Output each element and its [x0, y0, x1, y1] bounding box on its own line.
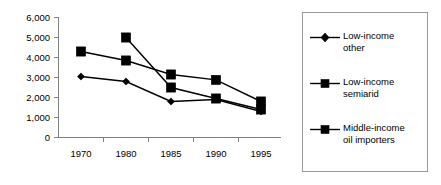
data-point: [76, 47, 85, 56]
y-tick-label-4000: 4,000: [26, 52, 50, 63]
chart-canvas: 6,000 5,000 4,000 3,000 2,000 1,000 0 19…: [0, 0, 292, 185]
y-tick-label-1000: 1,000: [26, 112, 50, 123]
x-axis-ticks: 1970 1980 1985 1990 1995: [70, 138, 271, 160]
data-point: [211, 94, 220, 103]
series-line: [81, 77, 261, 112]
y-axis-ticks: 6,000 5,000 4,000 3,000 2,000 1,000 0: [26, 12, 58, 143]
y-tick-label-2000: 2,000: [26, 92, 50, 103]
x-tick-label-1990: 1990: [205, 148, 226, 159]
y-tick-label-3000: 3,000: [26, 72, 50, 83]
y-tick-label-5000: 5,000: [26, 32, 50, 43]
data-point: [122, 78, 129, 85]
data-point: [166, 70, 175, 79]
legend-item-low-income-other[interactable]: Low-income other: [310, 30, 394, 53]
data-point: [121, 33, 130, 42]
square-marker-icon: [310, 123, 340, 136]
chart-legend: Low-income other Low-income semiarid Mid…: [302, 12, 428, 172]
data-point: [256, 105, 265, 114]
chart-screenshot: 6,000 5,000 4,000 3,000 2,000 1,000 0 19…: [0, 0, 441, 185]
legend-label-low-income-other: Low-income other: [343, 30, 394, 53]
series-2: [121, 33, 265, 114]
x-tick-label-1995: 1995: [250, 148, 271, 159]
x-tick-label-1970: 1970: [70, 148, 91, 159]
legend-item-middle-income-oil-importers[interactable]: Middle-income oil importers: [310, 122, 405, 145]
data-point: [166, 83, 175, 92]
data-point: [77, 73, 84, 80]
y-tick-label-6000: 6,000: [26, 12, 50, 23]
data-point: [211, 75, 220, 84]
square-marker-icon: [310, 77, 340, 90]
x-tick-label-1980: 1980: [115, 148, 136, 159]
legend-label-low-income-semiarid: Low-income semiarid: [343, 76, 394, 99]
series-1: [76, 47, 265, 106]
line-chart: 6,000 5,000 4,000 3,000 2,000 1,000 0 19…: [0, 0, 292, 185]
series-line: [126, 38, 261, 110]
x-tick-label-1985: 1985: [160, 148, 181, 159]
series-layer: [76, 33, 265, 115]
data-point: [167, 98, 174, 105]
y-tick-label-0: 0: [45, 132, 50, 143]
legend-item-low-income-semiarid[interactable]: Low-income semiarid: [310, 76, 394, 99]
legend-label-middle-income-oil-importers: Middle-income oil importers: [343, 122, 405, 145]
data-point: [121, 56, 130, 65]
diamond-marker-icon: [310, 31, 340, 44]
